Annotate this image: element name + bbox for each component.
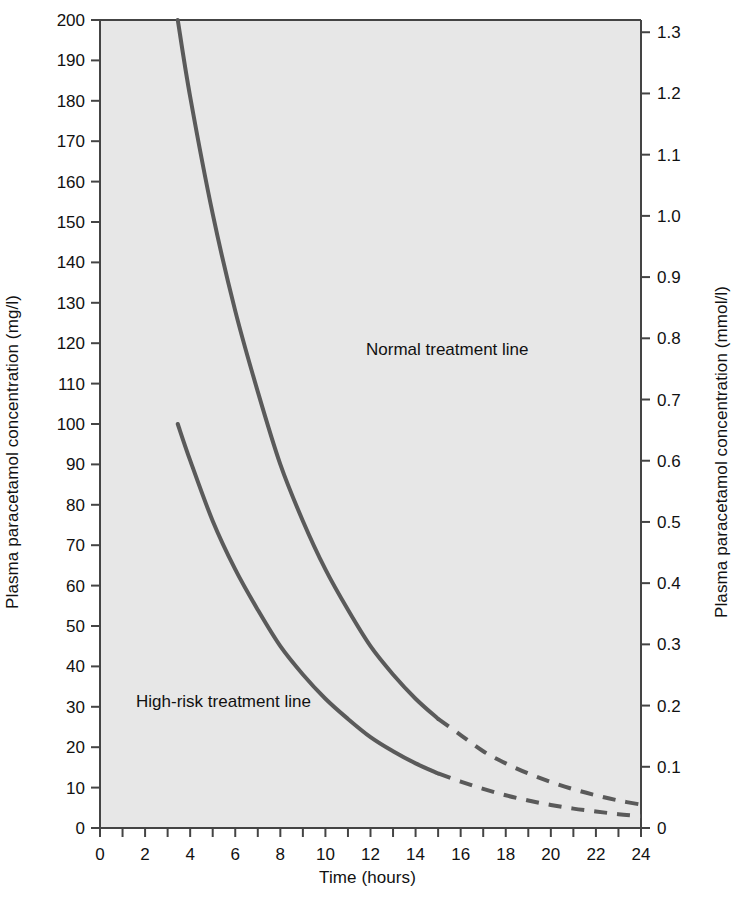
svg-text:1.0: 1.0	[657, 207, 681, 226]
x-axis-title: Time (hours)	[0, 868, 735, 888]
svg-text:16: 16	[451, 845, 470, 864]
svg-text:12: 12	[361, 845, 380, 864]
svg-text:80: 80	[66, 496, 85, 515]
svg-text:0.2: 0.2	[657, 697, 681, 716]
svg-text:50: 50	[66, 617, 85, 636]
svg-text:10: 10	[316, 845, 335, 864]
svg-text:130: 130	[57, 294, 85, 313]
svg-text:140: 140	[57, 253, 85, 272]
svg-text:170: 170	[57, 132, 85, 151]
svg-text:6: 6	[231, 845, 240, 864]
paracetamol-nomogram-figure: 024681012141618202224 010203040506070809…	[0, 0, 735, 903]
svg-text:1.3: 1.3	[657, 23, 681, 42]
svg-text:14: 14	[406, 845, 425, 864]
y-axis-right-title: Plasma paracetamol concentration (mmol/l…	[709, 0, 735, 903]
svg-text:0.9: 0.9	[657, 268, 681, 287]
y-axis-left-title-text: Plasma paracetamol concentration (mg/l)	[3, 295, 23, 609]
svg-text:4: 4	[185, 845, 194, 864]
svg-text:30: 30	[66, 698, 85, 717]
y-axis-left-title: Plasma paracetamol concentration (mg/l)	[0, 0, 26, 903]
svg-text:180: 180	[57, 92, 85, 111]
svg-text:22: 22	[586, 845, 605, 864]
svg-text:8: 8	[276, 845, 285, 864]
svg-text:0.7: 0.7	[657, 391, 681, 410]
svg-text:0.3: 0.3	[657, 635, 681, 654]
x-axis-title-text: Time (hours)	[319, 868, 416, 887]
svg-text:10: 10	[66, 779, 85, 798]
svg-text:90: 90	[66, 455, 85, 474]
x-axis-ticks: 024681012141618202224	[95, 828, 650, 864]
svg-text:0.8: 0.8	[657, 329, 681, 348]
svg-text:160: 160	[57, 173, 85, 192]
series-label-1: High-risk treatment line	[136, 692, 311, 711]
svg-text:200: 200	[57, 11, 85, 30]
svg-text:0.5: 0.5	[657, 513, 681, 532]
svg-text:18: 18	[496, 845, 515, 864]
svg-text:20: 20	[66, 738, 85, 757]
svg-text:0.4: 0.4	[657, 574, 681, 593]
svg-text:40: 40	[66, 657, 85, 676]
svg-text:70: 70	[66, 536, 85, 555]
svg-text:0: 0	[76, 819, 85, 838]
svg-text:0: 0	[95, 845, 104, 864]
svg-text:0.1: 0.1	[657, 758, 681, 777]
y-axis-right-ticks: 00.10.20.30.40.50.60.70.80.91.01.11.21.3	[641, 23, 681, 838]
svg-text:0: 0	[657, 819, 666, 838]
svg-text:150: 150	[57, 213, 85, 232]
chart-canvas: 024681012141618202224 010203040506070809…	[0, 0, 735, 903]
y-axis-right-title-text: Plasma paracetamol concentration (mmol/l…	[712, 286, 732, 618]
svg-text:0.6: 0.6	[657, 452, 681, 471]
svg-text:1.1: 1.1	[657, 146, 681, 165]
svg-text:110: 110	[58, 375, 85, 394]
y-axis-left-ticks: 0102030405060708090100110120130140150160…	[57, 11, 100, 838]
svg-text:190: 190	[57, 51, 85, 70]
svg-text:24: 24	[632, 845, 651, 864]
svg-text:20: 20	[541, 845, 560, 864]
svg-text:2: 2	[140, 845, 149, 864]
svg-text:120: 120	[57, 334, 85, 353]
svg-text:1.2: 1.2	[657, 84, 681, 103]
series-label-0: Normal treatment line	[366, 340, 529, 359]
svg-text:100: 100	[57, 415, 85, 434]
svg-text:60: 60	[66, 577, 85, 596]
